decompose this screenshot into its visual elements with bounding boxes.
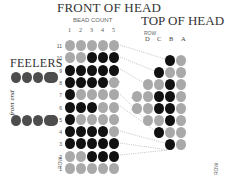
- column-number: 4: [101, 27, 104, 33]
- feeler-bead: [33, 115, 43, 126]
- black-bead: [98, 151, 108, 162]
- gray-bead: [98, 102, 108, 113]
- black-bead: [87, 77, 97, 88]
- gray-bead: [76, 163, 86, 174]
- gray-bead: [176, 67, 186, 78]
- gray-bead: [143, 91, 153, 102]
- black-bead: [154, 127, 164, 138]
- row-number: 3: [52, 141, 62, 147]
- row-number: 1: [52, 166, 62, 172]
- gray-bead: [176, 79, 186, 90]
- row-number: 2: [52, 154, 62, 160]
- black-bead: [87, 151, 97, 162]
- black-bead: [87, 65, 97, 76]
- gray-bead: [143, 103, 153, 114]
- gray-bead: [87, 163, 97, 174]
- black-bead: [76, 65, 86, 76]
- gray-bead: [98, 40, 108, 51]
- gray-bead: [176, 139, 186, 150]
- gray-bead: [132, 91, 142, 102]
- black-bead: [165, 115, 175, 126]
- bottom-right-row-label: ROW: [213, 163, 219, 175]
- black-bead: [76, 102, 86, 113]
- bead-count-label: BEAD COUNT: [73, 17, 112, 23]
- gray-bead: [87, 40, 97, 51]
- black-bead: [154, 91, 164, 102]
- row-number: 7: [52, 92, 62, 98]
- column-number: 3: [90, 27, 93, 33]
- feeler-bead: [33, 72, 43, 83]
- black-bead: [165, 139, 175, 150]
- gray-bead: [176, 103, 186, 114]
- top-of-head-title: TOP OF HEAD: [141, 13, 224, 29]
- black-bead: [109, 65, 119, 76]
- gray-bead: [109, 77, 119, 88]
- gray-bead: [132, 103, 142, 114]
- gray-bead: [176, 115, 186, 126]
- gray-bead: [165, 67, 175, 78]
- black-bead: [65, 77, 75, 88]
- gray-bead: [65, 40, 75, 51]
- gray-bead: [76, 151, 86, 162]
- gray-bead: [176, 91, 186, 102]
- feeler-bead: [11, 72, 21, 83]
- column-number: 5: [112, 27, 115, 33]
- black-bead: [76, 77, 86, 88]
- gray-bead: [98, 114, 108, 125]
- gray-bead: [143, 79, 153, 90]
- black-bead: [154, 103, 164, 114]
- gray-bead: [109, 163, 119, 174]
- black-bead: [165, 55, 175, 66]
- gray-bead: [143, 115, 153, 126]
- row-number: 4: [52, 129, 62, 135]
- gray-bead: [176, 127, 186, 138]
- feeler-long-bead: [44, 72, 58, 83]
- column-number: 1: [68, 27, 71, 33]
- black-bead: [98, 77, 108, 88]
- row-number: 11: [52, 43, 62, 49]
- black-bead: [154, 67, 164, 78]
- black-bead: [165, 103, 175, 114]
- gray-bead: [109, 40, 119, 51]
- column-letter: C: [157, 35, 161, 42]
- column-letter: B: [169, 35, 173, 42]
- gray-bead: [87, 114, 97, 125]
- gray-bead: [154, 115, 164, 126]
- row-number: 6: [52, 105, 62, 111]
- column-letter: D: [145, 35, 150, 42]
- gray-bead: [109, 114, 119, 125]
- gray-bead: [109, 102, 119, 113]
- black-bead: [87, 102, 97, 113]
- feeler-bead: [22, 72, 32, 83]
- gray-bead: [65, 163, 75, 174]
- black-bead: [165, 79, 175, 90]
- black-bead: [65, 102, 75, 113]
- black-bead: [98, 65, 108, 76]
- black-bead: [165, 91, 175, 102]
- column-number: 2: [79, 27, 82, 33]
- feeler-bead: [11, 115, 21, 126]
- gray-bead: [76, 114, 86, 125]
- gray-bead: [98, 163, 108, 174]
- gray-bead: [176, 55, 186, 66]
- black-bead: [109, 151, 119, 162]
- gray-bead: [154, 79, 164, 90]
- gray-bead: [65, 151, 75, 162]
- feeler-long-bead: [44, 115, 58, 126]
- feeler-bead: [22, 115, 32, 126]
- gray-bead: [76, 40, 86, 51]
- gray-bead: [165, 127, 175, 138]
- column-letter: A: [181, 35, 186, 42]
- black-bead: [65, 65, 75, 76]
- row-number: 10: [52, 55, 62, 61]
- black-bead: [65, 114, 75, 125]
